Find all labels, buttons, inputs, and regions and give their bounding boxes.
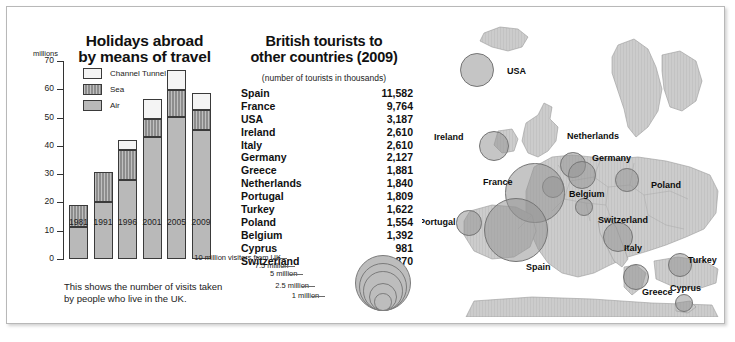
y-tick-label-60: 60 xyxy=(45,83,54,93)
legend-swatch-sea xyxy=(83,84,102,95)
table-row: Ireland2,610 xyxy=(241,126,413,139)
map-label-france: France xyxy=(483,177,513,187)
bar-1991 xyxy=(94,172,113,259)
y-tick-label-0: 0 xyxy=(49,253,54,263)
map-bubble-spain xyxy=(484,198,549,263)
bubble-size-key: 10 million visitors from UK7.5 million5 … xyxy=(239,251,419,315)
y-tick-60: 60 xyxy=(57,89,63,90)
table-cell-value: 9,764 xyxy=(387,100,413,112)
infographic-frame: Holidays abroad by means of travel milli… xyxy=(6,6,725,324)
legend-swatch-air xyxy=(83,100,102,111)
size-key-leader-7.5 xyxy=(281,266,295,267)
map-bubble-poland xyxy=(615,168,639,192)
y-tick-20: 20 xyxy=(57,202,63,203)
bubble-size-key-circles xyxy=(343,251,419,315)
bar-segment-2001-sea xyxy=(143,119,162,137)
legend-swatch-channel-tunnel xyxy=(83,68,102,79)
legend-item-air: Air xyxy=(83,99,166,112)
map-label-switzerland: Switzerland xyxy=(598,215,648,225)
chart-caption: This shows the number of visits taken by… xyxy=(64,281,229,304)
legend-label-air: Air xyxy=(110,101,120,110)
table-cell-value: 2,127 xyxy=(387,151,413,163)
y-tick-40: 40 xyxy=(57,146,63,147)
table-cell-value: 1,622 xyxy=(387,203,413,215)
y-tick-10: 10 xyxy=(57,231,63,232)
table-cell-value: 11,582 xyxy=(381,87,413,99)
table-cell-country: Netherlands xyxy=(241,177,302,189)
table-title-line1: British tourists to xyxy=(265,33,382,49)
bar-segment-2005-air xyxy=(167,117,186,259)
table-cell-value: 1,809 xyxy=(387,190,413,202)
table-cell-country: Poland xyxy=(241,216,276,228)
y-tick-label-50: 50 xyxy=(45,112,54,122)
table-row: Belgium1,392 xyxy=(241,229,413,242)
bar-segment-2001-air xyxy=(143,137,162,259)
table-row: Portugal1,809 xyxy=(241,190,413,203)
map-bubble-portugal xyxy=(456,210,482,236)
map-bubble-switzerland xyxy=(575,198,593,216)
table-cell-value: 1,840 xyxy=(387,177,413,189)
table-cell-value: 1,392 xyxy=(387,229,413,241)
bar-segment-1996-sea xyxy=(118,150,137,180)
map-label-germany: Germany xyxy=(592,153,631,163)
map-label-italy: Italy xyxy=(624,243,642,253)
table-row: USA3,187 xyxy=(241,113,413,126)
map-label-portugal: Portugal xyxy=(422,217,456,227)
y-tick-0: 0 xyxy=(57,259,63,260)
table-cell-country: Spain xyxy=(241,87,270,99)
y-tick-70: 70 xyxy=(57,61,63,62)
table-cell-value: 2,610 xyxy=(387,139,413,151)
y-tick-label-30: 30 xyxy=(45,168,54,178)
map-bubble-germany xyxy=(568,161,596,189)
legend-item-channel-tunnel: Channel Tunnel xyxy=(83,67,166,80)
bar-2001 xyxy=(143,99,162,259)
bar-segment-2009-air xyxy=(192,130,211,259)
table-row: Poland1,554 xyxy=(241,216,413,229)
table-row: Netherlands1,840 xyxy=(241,177,413,190)
map-label-cyprus: Cyprus xyxy=(670,283,701,293)
y-tick-label-20: 20 xyxy=(45,196,54,206)
table-body: Spain11,582France9,764USA3,187Ireland2,6… xyxy=(241,87,413,267)
bar-1981 xyxy=(69,205,88,259)
legend-label-channel-tunnel: Channel Tunnel xyxy=(110,69,166,78)
table-cell-country: Portugal xyxy=(241,190,284,202)
map-label-greece: Greece xyxy=(642,287,673,297)
bar-segment-2005-sea xyxy=(167,90,186,117)
map-label-ireland: Ireland xyxy=(434,132,464,142)
y-tick-label-10: 10 xyxy=(45,225,54,235)
map-label-poland: Poland xyxy=(651,180,681,190)
europe-bubble-map: USAIrelandNetherlandsGermanyBelgiumPolan… xyxy=(422,15,724,317)
table-cell-country: Belgium xyxy=(241,229,282,241)
size-key-leader-1 xyxy=(311,296,325,297)
table-cell-country: Germany xyxy=(241,151,287,163)
table-row: Turkey1,622 xyxy=(241,203,413,216)
table-cell-country: USA xyxy=(241,113,263,125)
bar-1996 xyxy=(118,140,137,259)
table-row: Spain11,582 xyxy=(241,87,413,100)
legend-label-sea: Sea xyxy=(110,85,124,94)
bar-segment-1996-tunnel xyxy=(118,140,137,150)
y-tick-label-70: 70 xyxy=(45,55,54,65)
bar-segment-1981-air xyxy=(69,227,88,259)
table-row: France9,764 xyxy=(241,100,413,113)
y-tick-50: 50 xyxy=(57,118,63,119)
x-axis-label-2009: 2009 xyxy=(186,217,216,227)
table-cell-country: Greece xyxy=(241,164,277,176)
chart-title-line1: Holidays abroad xyxy=(86,32,204,49)
y-tick-label-40: 40 xyxy=(45,140,54,150)
table-cell-country: Italy xyxy=(241,139,262,151)
map-label-belgium: Belgium xyxy=(569,189,605,199)
map-label-usa: USA xyxy=(507,66,526,76)
table-cell-value: 1,554 xyxy=(387,216,413,228)
bar-segment-2009-sea xyxy=(192,110,211,130)
size-key-leader-5 xyxy=(289,274,303,275)
table-cell-value: 1,881 xyxy=(387,164,413,176)
bar-segment-2005-tunnel xyxy=(167,70,186,90)
map-label-turkey: Turkey xyxy=(688,255,717,265)
size-key-leader-10 xyxy=(273,258,287,259)
table-title-line2: other countries (2009) xyxy=(250,49,397,65)
size-key-circle-1 xyxy=(374,293,392,311)
infographic-page: Holidays abroad by means of travel milli… xyxy=(0,0,735,342)
table-cell-country: Ireland xyxy=(241,126,275,138)
size-key-leader-2.5 xyxy=(301,286,315,287)
